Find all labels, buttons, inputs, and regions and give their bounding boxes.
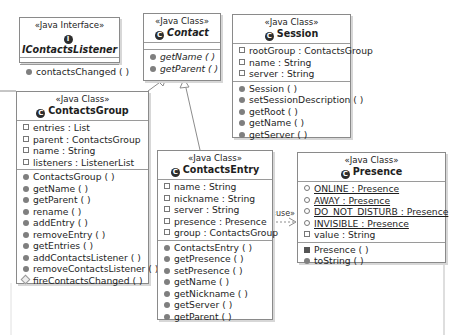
method-row[interactable]: getName ( )	[17, 183, 148, 195]
method-row[interactable]: ContactsEntry ( )	[158, 242, 272, 254]
method-row[interactable]: removeContactsListener ( )	[17, 263, 148, 275]
class-box-contactsgroup[interactable]: «Java Class» CContactsGroup entries : Li…	[16, 91, 149, 284]
method-row[interactable]: setSessionDescription ( )	[233, 94, 350, 106]
method-row[interactable]: setPresence ( )	[158, 265, 272, 277]
field-row[interactable]: INVISIBLE : Presence	[298, 218, 445, 230]
generalization-contactsentry-contact	[186, 88, 200, 150]
method-row[interactable]: getRoot ( )	[233, 106, 350, 118]
private-field-icon	[164, 183, 170, 189]
class-name: IContactsListener	[22, 44, 117, 55]
method-row[interactable]: addEntry ( )	[17, 217, 148, 229]
method-row[interactable]: contactsChanged ( )	[20, 66, 119, 78]
fields-section	[20, 58, 119, 65]
public-method-icon	[239, 109, 245, 115]
public-method-icon	[164, 245, 170, 251]
private-field-icon	[23, 136, 29, 142]
method-row[interactable]: getParent ( )	[158, 311, 272, 323]
fields-section: entries : List parent : ContactsGroup na…	[17, 121, 148, 170]
private-field-icon	[164, 229, 170, 235]
field-row[interactable]: listeners : ListenerList	[17, 157, 148, 169]
field-row[interactable]: parent : ContactsGroup	[17, 134, 148, 146]
method-row[interactable]: fireContactsChanged ( )	[17, 275, 148, 287]
private-field-icon	[164, 195, 170, 201]
class-box-icontactslistener[interactable]: «Java Interface» IIContactsListener cont…	[19, 17, 120, 63]
field-row[interactable]: name : String	[158, 181, 272, 193]
field-row[interactable]: name : String	[233, 57, 350, 69]
public-method-icon	[23, 243, 29, 249]
public-method-icon	[23, 232, 29, 238]
public-method-icon	[23, 255, 29, 261]
class-box-contact[interactable]: «Java Class» CContact getName ( ) getPar…	[143, 13, 221, 81]
methods-section: Presence ( ) toString ( )	[298, 243, 445, 268]
method-row[interactable]: getParent ( )	[144, 63, 220, 75]
class-header: «Java Interface» IIContactsListener	[20, 18, 119, 58]
field-row[interactable]: AWAY : Presence	[298, 195, 445, 207]
stereotype: «Java Class»	[19, 94, 146, 105]
public-method-icon	[23, 220, 29, 226]
stereotype: «Java Class»	[146, 16, 218, 27]
methods-section: Session ( ) setSessionDescription ( ) ge…	[233, 82, 350, 142]
method-row[interactable]: getName ( )	[233, 117, 350, 129]
field-row[interactable]: entries : List	[17, 122, 148, 134]
public-method-icon	[23, 266, 29, 272]
method-row[interactable]: getParent ( )	[17, 194, 148, 206]
method-row[interactable]: getPresence ( )	[158, 253, 272, 265]
stereotype: «Java Class»	[160, 153, 270, 164]
class-name: Session	[277, 28, 319, 39]
methods-section: ContactsEntry ( ) getPresence ( ) setPre…	[158, 241, 272, 324]
field-row[interactable]: value : String	[298, 229, 445, 241]
protected-method-icon	[21, 274, 31, 284]
method-row[interactable]: getName ( )	[144, 51, 220, 63]
private-field-icon	[239, 59, 245, 65]
methods-section: ContactsGroup ( ) getName ( ) getParent …	[17, 170, 148, 287]
class-name: Contact	[167, 27, 209, 38]
method-row[interactable]: getName ( )	[158, 276, 272, 288]
public-method-icon	[150, 66, 156, 72]
method-row[interactable]: removeEntry ( )	[17, 229, 148, 241]
fields-section: rootGroup : ContactsGroup name : String …	[233, 44, 350, 82]
method-row[interactable]: getServer ( )	[158, 299, 272, 311]
fields-section: name : String nickname : String server :…	[158, 180, 272, 241]
field-row[interactable]: server : String	[233, 68, 350, 80]
field-row[interactable]: nickname : String	[158, 193, 272, 205]
class-icon: C	[171, 168, 180, 177]
field-row[interactable]: group : ContactsGroup	[158, 227, 272, 239]
field-row[interactable]: ONLINE : Presence	[298, 183, 445, 195]
field-row[interactable]: name : String	[17, 145, 148, 157]
method-row[interactable]: getEntries ( )	[17, 240, 148, 252]
class-box-session[interactable]: «Java Class» CSession rootGroup : Contac…	[232, 14, 351, 138]
public-method-icon	[239, 97, 245, 103]
class-header: «Java Class» CPresence	[298, 153, 445, 182]
private-method-icon	[304, 247, 310, 253]
class-header: «Java Class» CContactsEntry	[158, 151, 272, 180]
public-method-icon	[164, 279, 170, 285]
public-method-icon	[239, 86, 245, 92]
field-row[interactable]: rootGroup : ContactsGroup	[233, 45, 350, 57]
public-method-icon	[239, 132, 245, 138]
method-row[interactable]: addContactsListener ( )	[17, 252, 148, 264]
method-row[interactable]: toString ( )	[298, 255, 445, 267]
class-box-contactsentry[interactable]: «Java Class» CContactsEntry name : Strin…	[157, 150, 273, 320]
method-row[interactable]: getNickname ( )	[158, 288, 272, 300]
public-method-icon	[150, 54, 156, 60]
class-icon: C	[265, 32, 274, 41]
methods-section: contactsChanged ( )	[20, 65, 119, 79]
private-field-icon	[23, 159, 29, 165]
public-method-icon	[164, 302, 170, 308]
class-box-presence[interactable]: «Java Class» CPresence ONLINE : Presence…	[297, 152, 446, 263]
stereotype: «Java Class»	[300, 155, 443, 166]
method-row[interactable]: getServer ( )	[233, 129, 350, 141]
public-method-icon	[23, 197, 29, 203]
field-row[interactable]: server : String	[158, 204, 272, 216]
fields-section: ONLINE : Presence AWAY : Presence DO_NOT…	[298, 182, 445, 243]
interface-icon: I	[64, 35, 73, 44]
class-name: Presence	[353, 166, 403, 177]
public-method-icon	[164, 314, 170, 320]
field-row[interactable]: DO_NOT_DISTURB : Presence	[298, 206, 445, 218]
class-icon: C	[341, 170, 350, 179]
method-row[interactable]: rename ( )	[17, 206, 148, 218]
field-row[interactable]: presence : Presence	[158, 216, 272, 228]
method-row[interactable]: Session ( )	[233, 83, 350, 95]
method-row[interactable]: Presence ( )	[298, 244, 445, 256]
method-row[interactable]: ContactsGroup ( )	[17, 171, 148, 183]
